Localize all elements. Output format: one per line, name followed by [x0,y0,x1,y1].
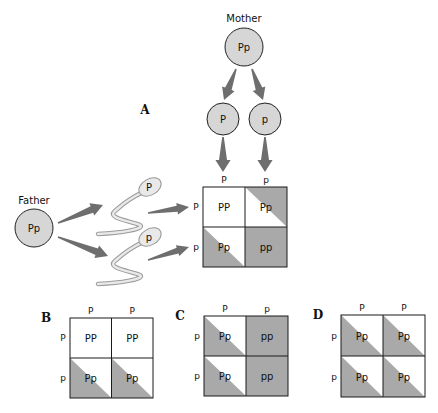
arrow-icon [148,245,189,261]
cell-genotype: Pp [356,331,368,342]
mother-label: Mother [226,13,262,24]
column-header: P [401,303,407,313]
cell-genotype: Pp [356,372,368,383]
column-header: p [263,175,269,185]
row-header: p [194,331,200,341]
cell-genotype: pp [261,331,274,342]
cell-genotype: PP [218,202,230,213]
square-label: C [175,309,185,323]
cell-genotype: pp [261,371,274,382]
egg-allele: P [220,114,226,125]
sperm-tail [98,243,141,284]
column-header: P [130,306,136,316]
cell-genotype: Pp [398,372,410,383]
column-header: P [359,303,365,313]
father-label: Father [18,195,50,206]
column-header: p [264,304,270,314]
sperm-gametes: Pp [98,174,164,284]
sperm-tail [98,193,141,234]
row-header: p [60,373,66,383]
mother-genotype: Pp [238,42,250,53]
column-header: P [88,306,94,316]
father-genotype: Pp [28,223,40,234]
row-header: p [193,242,199,252]
punnett-diagram: Mother Pp Father Pp Pp Pp APpPpPPPpPpppB… [0,0,438,413]
sperm-allele: p [146,232,152,243]
row-header: p [331,372,337,382]
cell-genotype: Pp [219,331,231,342]
cell-genotype: Pp [219,371,231,382]
row-header: P [193,202,199,212]
row-header: p [194,371,200,381]
egg-gametes: Pp [207,103,281,135]
cell-genotype: PP [126,333,138,344]
cell-genotype: Pp [260,202,272,213]
cell-genotype: PP [85,333,97,344]
arrow-icon [215,137,230,172]
arrow-icon [148,203,189,214]
cell-genotype: Pp [398,331,410,342]
punnett-square-b: BPPPpPPPPPpPp [41,306,153,398]
arrow-icon [257,137,272,172]
arrow-icon [222,69,237,100]
cell-genotype: Pp [218,242,230,253]
column-header: P [221,175,227,185]
punnett-square-c: CPpppPpppPppp [175,304,288,396]
row-header: p [331,331,337,341]
sperm-allele: P [146,182,152,193]
column-header: P [222,304,228,314]
punnett-square-d: DPPppPpPpPpPp [313,303,425,397]
cell-genotype: Pp [85,373,97,384]
cell-genotype: pp [260,242,273,253]
square-label: A [139,103,150,117]
square-label: B [41,311,51,325]
arrow-icon [251,69,265,100]
egg-allele: p [262,114,268,125]
row-header: P [60,333,66,343]
arrow-icon [58,236,108,258]
square-label: D [313,308,323,322]
arrow-icon [58,203,103,223]
diagram-canvas: Mother Pp Father Pp Pp Pp APpPpPPPpPpppB… [0,0,438,413]
cell-genotype: Pp [126,373,138,384]
